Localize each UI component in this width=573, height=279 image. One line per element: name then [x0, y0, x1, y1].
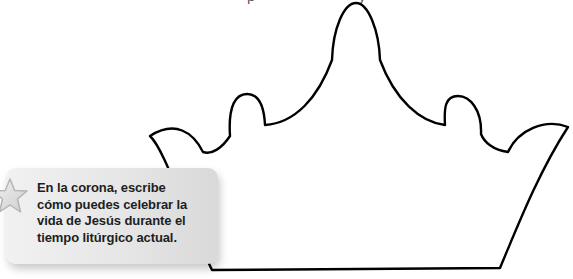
instruction-line-3: vida de Jesús durante el — [37, 213, 227, 230]
instruction-line-1: En la corona, escribe — [37, 180, 227, 197]
star-icon — [0, 176, 30, 216]
instruction-line-4: tiempo litúrgico actual. — [37, 230, 227, 247]
instruction-text: En la corona, escribe cómo puedes celebr… — [37, 180, 227, 246]
instruction-line-2: cómo puedes celebrar la — [37, 197, 227, 214]
